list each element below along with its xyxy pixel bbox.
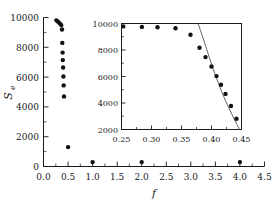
main-xtick-label: 4.0 [233, 172, 248, 182]
inset-ytick-label: 6000 [98, 73, 118, 82]
main-xtick-label: 2.0 [135, 172, 150, 182]
data-point [61, 65, 65, 69]
main-xtick-label: 0.5 [61, 172, 76, 182]
inset-data-point [209, 64, 213, 68]
inset-data-point [188, 33, 192, 37]
scatter-plot-svg: 0 2000 4000 6000 8000 10000 0.0 0.5 1.0 … [0, 0, 280, 203]
inset-background [96, 20, 246, 133]
main-xtick-label: 3.5 [208, 172, 223, 182]
inset-xtick-label: 0.35 [173, 135, 191, 144]
data-point [61, 58, 65, 62]
inset-data-point [234, 117, 238, 121]
inset-data-point [121, 24, 125, 28]
inset-xtick-label: 0.30 [143, 135, 161, 144]
inset-ytick-label: 4000 [98, 99, 118, 108]
data-point [62, 94, 66, 98]
inset-x-ticklabels: 0.25 0.30 0.35 0.40 0.45 [113, 135, 251, 144]
y-axis-title: S e [2, 85, 17, 100]
inset-data-point [203, 55, 207, 59]
data-point [60, 27, 64, 31]
inset-ytick-label: 2000 [98, 126, 118, 135]
data-point [238, 160, 242, 164]
main-ytick-label: 2000 [16, 132, 39, 142]
figure-container: 0 2000 4000 6000 8000 10000 0.0 0.5 1.0 … [0, 0, 280, 203]
inset-ytick-label: 10000 [93, 20, 118, 29]
main-xtick-label: 0.0 [36, 172, 51, 182]
inset-data-point [197, 46, 201, 50]
y-axis-title-base: S [2, 92, 15, 100]
data-point [60, 41, 64, 45]
inset-data-point [155, 25, 159, 29]
main-ytick-label: 6000 [16, 73, 39, 83]
y-axis-title-subscript: e [8, 85, 17, 90]
main-ytick-label: 4000 [16, 102, 39, 112]
data-point [61, 74, 65, 78]
main-y-ticks [44, 18, 49, 167]
inset-xtick-label: 0.45 [233, 135, 251, 144]
inset-data-point [219, 83, 223, 87]
inset-ytick-label: 8000 [98, 46, 118, 55]
inset-data-point [214, 74, 218, 78]
data-point [90, 160, 94, 164]
data-point [59, 23, 63, 27]
data-point [62, 83, 66, 87]
inset-data-point [140, 25, 144, 29]
x-axis-title: f [151, 187, 158, 200]
main-ytick-label: 0 [33, 162, 39, 172]
inset-xtick-label: 0.40 [203, 135, 221, 144]
inset-xtick-label: 0.25 [113, 135, 131, 144]
data-point [140, 160, 144, 164]
main-xtick-label: 3.0 [184, 172, 199, 182]
main-xtick-label: 1.5 [110, 172, 125, 182]
main-xtick-label: 1.0 [85, 172, 100, 182]
main-ytick-label: 10000 [10, 13, 39, 23]
inset-data-point [229, 104, 233, 108]
data-point [66, 145, 70, 149]
inset-panel: 2000 4000 6000 8000 10000 0.25 0.30 0.35… [93, 20, 251, 145]
main-xtick-label: 4.5 [257, 172, 272, 182]
main-x-ticklabels: 0.0 0.5 1.0 1.5 2.0 2.5 3.0 3.5 4.0 4.5 [36, 172, 272, 182]
data-point [60, 50, 64, 54]
inset-data-point [223, 92, 227, 96]
inset-data-point [173, 26, 177, 30]
main-ytick-label: 8000 [16, 43, 39, 53]
main-xtick-label: 2.5 [159, 172, 174, 182]
main-x-ticks [44, 162, 265, 167]
